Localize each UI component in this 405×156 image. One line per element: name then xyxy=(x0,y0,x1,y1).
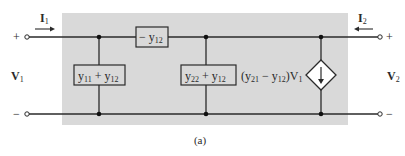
port1-minus-terminal xyxy=(25,112,29,116)
port2-plus-sign: + xyxy=(386,30,393,44)
junction-dot xyxy=(319,35,324,40)
junction-dot xyxy=(97,112,102,117)
junction-dot xyxy=(319,112,324,117)
port2-minus-terminal xyxy=(378,112,382,116)
port1-plus-terminal xyxy=(25,35,29,39)
port2-voltage-label: V2 xyxy=(387,69,400,84)
figure-caption: (a) xyxy=(194,134,207,147)
two-port-circuit-diagram: y11 + y12 − y12 y22 + y12 (y21 − y12)V1 … xyxy=(0,0,405,156)
port2-minus-sign: − xyxy=(386,107,393,121)
port2-current-label: I2 xyxy=(358,11,367,26)
junction-dot xyxy=(204,112,209,117)
port2-plus-terminal xyxy=(378,35,382,39)
arrowhead-icon xyxy=(50,27,55,32)
port1-voltage-label: V1 xyxy=(11,69,24,84)
dependent-source-label: (y21 − y12)V1 xyxy=(241,69,302,84)
arrowhead-icon xyxy=(354,27,359,32)
port1-plus-sign: + xyxy=(13,30,20,44)
junction-dot xyxy=(97,35,102,40)
port1-minus-sign: − xyxy=(13,107,20,121)
port1-current-label: I1 xyxy=(40,11,49,26)
junction-dot xyxy=(204,35,209,40)
